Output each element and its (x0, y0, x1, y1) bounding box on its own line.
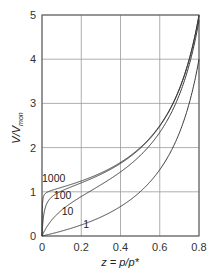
y-tick-label: 0 (30, 230, 36, 242)
y-axis-ticks: 012345 (30, 9, 36, 242)
x-tick-label: 0.2 (74, 241, 89, 253)
curve-label-1: 1 (83, 218, 89, 230)
bet-isotherm-chart: 1101001000 00.20.40.60.8 012345 z = p/p*… (0, 0, 212, 278)
curve-label-1000: 1000 (42, 172, 66, 184)
grid-lines (42, 15, 199, 236)
x-tick-label: 0.8 (191, 241, 206, 253)
x-tick-label: 0.6 (152, 241, 167, 253)
curve-label-100: 100 (54, 189, 72, 201)
y-tick-label: 1 (30, 186, 36, 198)
y-tick-label: 2 (30, 142, 36, 154)
x-axis-label: z = p/p* (100, 256, 139, 268)
curve-label-10: 10 (62, 205, 74, 217)
y-axis-label-subscript: mon (17, 112, 24, 126)
y-tick-label: 5 (30, 9, 36, 21)
y-tick-label: 4 (30, 53, 36, 65)
y-axis-label: V/Vmon (10, 112, 24, 143)
y-tick-label: 3 (30, 97, 36, 109)
x-tick-label: 0 (39, 241, 45, 253)
svg-text:V/Vmon: V/Vmon (10, 112, 24, 143)
y-axis-label-main: V/V (10, 124, 22, 143)
x-tick-label: 0.4 (113, 241, 128, 253)
x-axis-ticks: 00.20.40.60.8 (39, 241, 207, 253)
